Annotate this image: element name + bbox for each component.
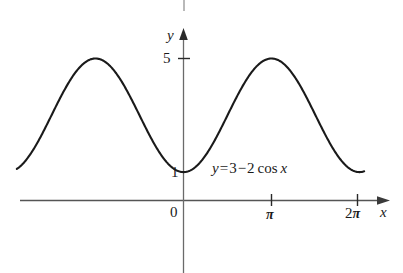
plot-canvas [0, 0, 403, 273]
equation-three: 3 [229, 160, 237, 176]
pi-glyph-2: π [353, 206, 361, 221]
equation-cos: cos [255, 160, 278, 176]
equation-annotation: y=3−2cosx [212, 161, 287, 176]
x-tick-label-pi: π [266, 206, 274, 222]
y-tick-label-5: 5 [163, 51, 171, 66]
equation-x: x [278, 160, 288, 176]
x-tick-label-origin: 0 [170, 205, 178, 220]
two-prefix: 2 [345, 205, 353, 221]
equation-equals: = [219, 160, 229, 176]
y-axis-arrowhead [179, 28, 188, 40]
function-graph-figure: y x 5 1 0 π 2π y=3−2cosx [0, 0, 403, 273]
equation-minus: − [237, 160, 247, 176]
equation-two: 2 [247, 160, 255, 176]
cosine-curve [17, 59, 364, 173]
y-tick-label-1: 1 [171, 165, 179, 180]
equation-y: y [212, 160, 219, 176]
x-tick-label-2pi: 2π [345, 205, 360, 221]
x-axis-label: x [380, 205, 387, 220]
y-axis-label: y [167, 28, 174, 43]
pi-glyph: π [266, 207, 274, 222]
